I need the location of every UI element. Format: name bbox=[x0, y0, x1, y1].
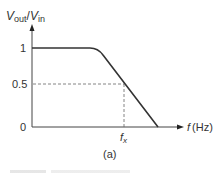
x-axis-label: f(Hz) bbox=[187, 121, 213, 133]
x-axis-arrow-icon bbox=[177, 125, 184, 130]
chart: Vout/Vin 1 0.5 0 fx f(Hz) (a) bbox=[0, 0, 222, 177]
response-curve bbox=[32, 48, 158, 127]
x-tick-fx: fx bbox=[120, 131, 128, 145]
subfigure-label: (a) bbox=[103, 148, 116, 160]
cut-off-caption bbox=[10, 170, 130, 173]
y-axis-arrow-icon bbox=[30, 24, 35, 31]
y-tick-0.5: 0.5 bbox=[12, 78, 27, 90]
y-axis-label: Vout/Vin bbox=[6, 9, 45, 24]
y-tick-0: 0 bbox=[20, 121, 26, 133]
y-tick-1: 1 bbox=[20, 42, 26, 54]
